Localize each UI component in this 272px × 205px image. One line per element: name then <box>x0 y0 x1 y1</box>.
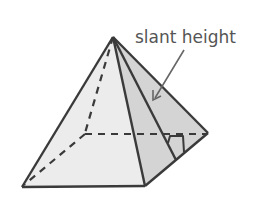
pyramid-svg: slant height <box>0 0 272 205</box>
slant-height-label: slant height <box>135 27 236 47</box>
pyramid-diagram: slant height <box>0 0 272 205</box>
edge-base-front <box>22 186 145 187</box>
